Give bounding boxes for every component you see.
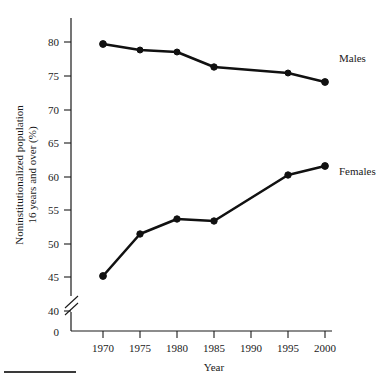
series-males: Males	[100, 41, 366, 86]
y-tick-label-70: 70	[48, 104, 60, 116]
y-tick-label-40: 40	[48, 305, 60, 317]
males-point-1975	[137, 47, 143, 53]
males-point-2000	[322, 79, 329, 86]
females-point-2000	[322, 163, 329, 170]
x-axis-title: Year	[204, 361, 225, 373]
x-tick-label-1990: 1990	[240, 342, 263, 354]
y-tick-label-60: 60	[48, 171, 60, 183]
y-axis-title-line2: 16 years and over (%)	[26, 126, 39, 223]
x-tick-label-1995: 1995	[277, 342, 300, 354]
females-point-1975	[137, 231, 143, 237]
series-females: Females	[100, 163, 376, 280]
females-point-1995	[285, 172, 291, 178]
y-tick-label-50: 50	[48, 238, 60, 250]
y-tick-label-45: 45	[48, 271, 60, 283]
x-tick-label-1980: 1980	[166, 342, 189, 354]
males-point-1970	[100, 41, 107, 48]
series-label-females: Females	[339, 165, 376, 177]
chart-svg: 80 75 70 65 60 55 50 45 40 0 1970 1975 1…	[0, 0, 384, 380]
series-label-males: Males	[339, 52, 366, 64]
males-line	[103, 44, 325, 82]
females-point-1980	[174, 216, 180, 222]
x-tick-label-1985: 1985	[203, 342, 226, 354]
males-point-1985	[211, 64, 217, 70]
x-tick-label-2000: 2000	[314, 342, 337, 354]
x-tick-label-1970: 1970	[92, 342, 115, 354]
x-axis-ticks	[103, 331, 325, 338]
footer-rule	[4, 371, 76, 373]
y-tick-label-80: 80	[48, 36, 60, 48]
y-axis-ticks	[64, 42, 71, 311]
males-point-1995	[285, 70, 291, 76]
x-tick-label-1975: 1975	[129, 342, 152, 354]
y-tick-label-55: 55	[48, 204, 60, 216]
females-point-1970	[100, 273, 107, 280]
males-point-1980	[174, 49, 180, 55]
y-axis-title-line1: Noninstitutionalized population	[13, 105, 25, 245]
y-tick-label-0: 0	[54, 326, 60, 338]
line-chart-figure: 80 75 70 65 60 55 50 45 40 0 1970 1975 1…	[0, 0, 384, 380]
y-tick-label-75: 75	[48, 70, 60, 82]
females-point-1985	[211, 218, 217, 224]
y-tick-label-65: 65	[48, 137, 60, 149]
